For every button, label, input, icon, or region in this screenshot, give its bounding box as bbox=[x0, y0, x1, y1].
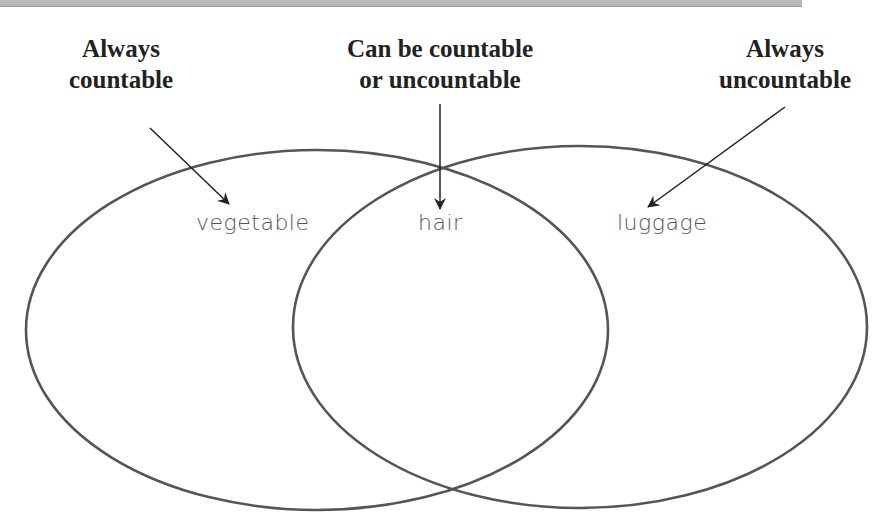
label-vegetable: vegetable bbox=[196, 210, 310, 235]
arrow-countable bbox=[150, 128, 229, 204]
heading-right-line2: uncountable bbox=[685, 64, 885, 95]
uncountable-circle bbox=[293, 146, 867, 508]
arrow-uncountable bbox=[648, 107, 785, 207]
label-luggage: luggage bbox=[617, 210, 707, 235]
label-hair: hair bbox=[418, 210, 463, 235]
heading-right-line1: Always bbox=[685, 33, 885, 64]
venn-diagram-canvas: Always countable Can be countable or unc… bbox=[0, 0, 892, 529]
heading-always-uncountable: Always uncountable bbox=[685, 33, 885, 95]
heading-left-line1: Always bbox=[21, 33, 221, 64]
heading-always-countable: Always countable bbox=[21, 33, 221, 95]
heading-middle-line1: Can be countable bbox=[300, 33, 580, 64]
heading-left-line2: countable bbox=[21, 64, 221, 95]
heading-can-be-either: Can be countable or uncountable bbox=[300, 33, 580, 95]
countable-circle bbox=[26, 150, 608, 510]
heading-middle-line2: or uncountable bbox=[300, 64, 580, 95]
